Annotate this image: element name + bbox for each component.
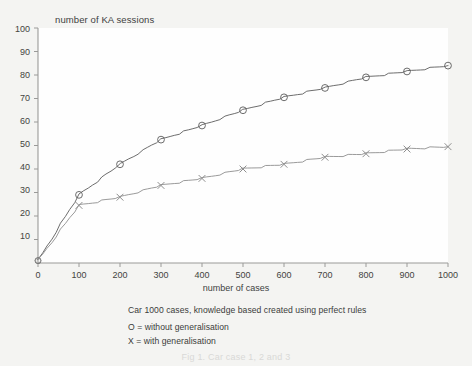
figure-container: number of KA sessions 100 90 80 70 60 50… <box>0 0 472 366</box>
plot-area <box>0 0 472 366</box>
